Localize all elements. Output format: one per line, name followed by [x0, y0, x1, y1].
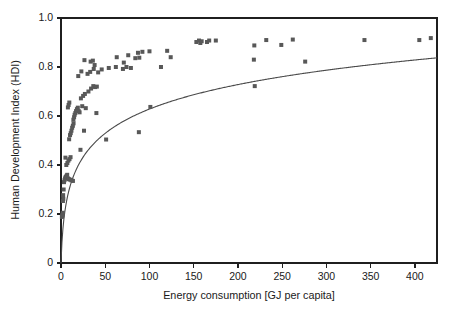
data-point-marker — [72, 121, 76, 125]
data-point-marker — [137, 130, 141, 134]
data-point-marker — [88, 70, 92, 74]
data-point-marker — [291, 38, 295, 42]
data-point-marker — [115, 55, 119, 59]
data-point-marker — [100, 67, 104, 71]
x-tick-label: 150 — [185, 270, 203, 282]
data-point-marker — [61, 197, 65, 201]
data-point-marker — [121, 67, 125, 71]
data-point-marker — [62, 188, 66, 192]
y-tick-label: 0 — [47, 256, 53, 268]
data-point-marker — [91, 59, 95, 63]
data-point-marker — [129, 66, 133, 70]
data-point-marker — [104, 138, 108, 142]
data-point-marker — [67, 137, 71, 141]
data-point-marker — [63, 156, 67, 160]
y-tick-label: 0.8 — [38, 60, 53, 72]
y-axis-ticks: 00.20.40.60.81.0 — [38, 11, 61, 268]
y-axis-title: Human Development Index (HDI) — [9, 60, 21, 220]
data-point-marker — [136, 51, 140, 55]
data-point-marker — [124, 65, 128, 69]
y-tick-label: 0.6 — [38, 109, 53, 121]
data-point-marker — [133, 56, 137, 60]
x-tick-label: 100 — [141, 270, 159, 282]
data-point-marker — [78, 110, 82, 114]
data-point-marker — [165, 49, 169, 53]
x-tick-label: 50 — [99, 270, 111, 282]
x-tick-label: 350 — [362, 270, 380, 282]
data-point-marker — [147, 49, 151, 53]
data-point-marker — [253, 84, 257, 88]
data-point-marker — [79, 69, 83, 73]
y-tick-label: 0.2 — [38, 207, 53, 219]
data-point-marker — [80, 104, 84, 108]
x-tick-label: 0 — [58, 270, 64, 282]
data-point-marker — [264, 38, 268, 42]
data-point-marker — [169, 55, 173, 59]
data-point-marker — [252, 58, 256, 62]
data-point-marker — [92, 67, 96, 71]
x-tick-label: 400 — [406, 270, 424, 282]
data-point-marker — [82, 58, 86, 62]
data-point-marker — [148, 105, 152, 109]
data-point-marker — [96, 70, 100, 74]
data-point-marker — [107, 66, 111, 70]
data-point-marker — [114, 65, 118, 69]
data-point-marker — [65, 173, 69, 177]
data-point-marker — [82, 129, 86, 133]
x-tick-label: 250 — [273, 270, 291, 282]
data-point-marker — [279, 43, 283, 47]
data-point-marker — [83, 92, 87, 96]
data-point-marker — [76, 106, 80, 110]
data-point-marker — [69, 155, 73, 159]
data-point-marker — [67, 101, 71, 105]
data-point-marker — [66, 105, 70, 109]
x-axis-ticks: 050100150200250300350400 — [58, 263, 424, 282]
data-point-marker — [200, 39, 204, 43]
y-tick-label: 0.4 — [38, 158, 53, 170]
data-point-marker — [362, 38, 366, 42]
data-point-marker — [417, 38, 421, 42]
data-point-marker — [429, 36, 433, 40]
x-tick-label: 300 — [318, 270, 336, 282]
data-point-marker — [61, 211, 65, 215]
data-point-marker — [76, 74, 80, 78]
data-point-marker — [122, 61, 126, 65]
data-point-marker — [94, 111, 98, 115]
plot-frame — [61, 18, 437, 263]
data-point-marker — [140, 50, 144, 54]
data-point-marker — [93, 63, 97, 67]
axis-group — [61, 18, 437, 263]
data-point-marker — [78, 148, 82, 152]
logarithmic-fit-curve — [61, 58, 437, 263]
chart-figure: 00.20.40.60.81.0 05010015020025030035040… — [0, 0, 453, 315]
data-point-marker — [61, 193, 65, 197]
data-point-marker — [126, 53, 130, 57]
scatter-plot-svg: 00.20.40.60.81.0 05010015020025030035040… — [0, 0, 453, 315]
data-point-marker — [95, 85, 99, 89]
data-point-marker — [137, 56, 141, 60]
data-point-marker — [252, 43, 256, 47]
data-point-marker — [207, 39, 211, 43]
data-point-marker — [214, 39, 218, 43]
y-tick-label: 1.0 — [38, 11, 53, 23]
data-point-marker — [303, 60, 307, 64]
x-axis-title: Energy consumption [GJ per capita] — [163, 289, 335, 301]
data-point-marker — [159, 65, 163, 69]
x-tick-label: 200 — [229, 270, 247, 282]
data-point-marker — [71, 179, 75, 183]
fit-curve-group — [61, 58, 437, 263]
data-point-marker — [84, 106, 88, 110]
